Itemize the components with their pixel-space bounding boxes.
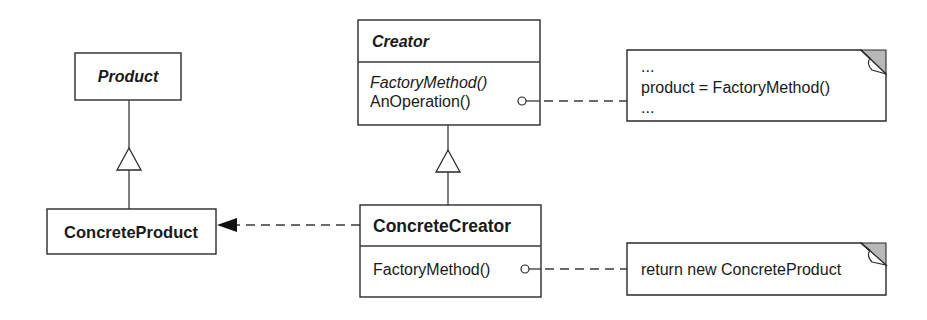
generalization-triangle-icon	[117, 148, 141, 170]
class-product-name: Product	[98, 68, 159, 85]
creator-operation-anoperation: AnOperation()	[370, 93, 471, 110]
dependency-concretecreator-to-concreteproduct	[217, 218, 360, 232]
class-product: Product	[75, 53, 181, 100]
generalization-concreteproduct-to-product	[117, 100, 141, 209]
note-anoperation-line-2: product = FactoryMethod()	[641, 79, 830, 96]
factorymethod-anchor-circle-icon	[521, 265, 529, 273]
note-anoperation-line-1: ...	[641, 58, 654, 75]
class-concrete-creator-name: ConcreteCreator	[373, 216, 511, 236]
factory-method-uml-diagram: Product ConcreteProduct ConcreteProduct …	[0, 0, 927, 320]
generalization-concretecreator-to-creator	[436, 125, 460, 205]
class-concrete-creator: ConcreteCreator FactoryMethod()	[360, 205, 541, 297]
note-factorymethod: return new ConcreteProduct	[627, 243, 886, 295]
note-factorymethod-line-1: return new ConcreteProduct	[641, 261, 842, 278]
concretecreator-operation-factorymethod: FactoryMethod()	[373, 261, 490, 278]
dependency-arrowhead-icon	[217, 218, 237, 232]
generalization-triangle-icon	[436, 150, 460, 172]
class-creator-name: Creator	[372, 33, 430, 50]
class-concrete-product-name: ConcreteProduct	[64, 223, 198, 241]
class-creator: Creator FactoryMethod() AnOperation()	[358, 20, 540, 125]
creator-operation-factorymethod: FactoryMethod()	[370, 74, 487, 91]
note-anoperation-line-3: ...	[641, 99, 654, 116]
note-anoperation: ... product = FactoryMethod() ...	[627, 50, 886, 121]
anoperation-anchor-circle-icon	[518, 97, 526, 105]
class-concrete-product: ConcreteProduct	[47, 209, 216, 254]
